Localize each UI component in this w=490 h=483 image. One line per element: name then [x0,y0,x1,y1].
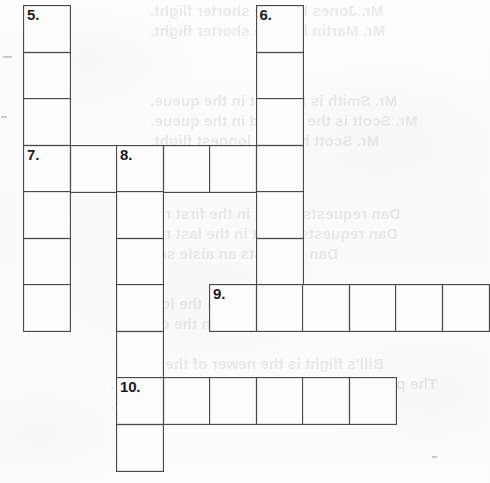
crossword-cell[interactable] [256,145,304,193]
crossword-cell-numbered[interactable]: 9. [209,284,257,332]
crossword-cell-numbered[interactable]: 7. [23,145,71,193]
crossword-cell[interactable] [395,284,443,332]
crossword-clue-number: 9. [213,286,225,301]
crossword-cell[interactable] [116,191,164,239]
crossword-cell-numbered[interactable]: 8. [116,145,164,193]
crossword-cell-numbered[interactable]: 5. [23,5,71,53]
crossword-cell[interactable] [116,238,164,286]
crossword-cell[interactable] [302,284,350,332]
crossword-cell[interactable] [302,377,350,425]
crossword-cell[interactable] [256,98,304,146]
crossword-cell[interactable] [349,377,397,425]
crossword-cell-numbered[interactable]: 6. [256,5,304,53]
crossword-cell[interactable] [256,191,304,239]
crossword-cell[interactable] [163,377,211,425]
crossword-cell[interactable] [209,377,257,425]
crossword-cell[interactable] [23,284,71,332]
crossword-cell[interactable] [70,145,118,193]
crossword-cell[interactable] [256,238,304,286]
crossword-cell[interactable] [23,98,71,146]
crossword-cell[interactable] [349,284,397,332]
crossword-cell[interactable] [116,284,164,332]
crossword-clue-number: 6. [260,7,272,22]
crossword-cell[interactable] [442,284,490,332]
crossword-clue-number: 10. [120,379,140,394]
crossword-cell-numbered[interactable]: 10. [116,377,164,425]
crossword-clue-number: 8. [120,147,132,162]
crossword-clue-number: 7. [27,147,39,162]
crossword-cell[interactable] [23,191,71,239]
crossword-cell[interactable] [23,52,71,100]
crossword-clue-number: 5. [27,7,39,22]
crossword-cell[interactable] [163,145,211,193]
crossword-cell[interactable] [116,424,164,472]
crossword-cell[interactable] [256,284,304,332]
crossword-cell[interactable] [256,377,304,425]
crossword-cell[interactable] [23,238,71,286]
crossword-cell[interactable] [209,145,257,193]
crossword-cell[interactable] [256,52,304,100]
crossword-cell[interactable] [116,331,164,379]
